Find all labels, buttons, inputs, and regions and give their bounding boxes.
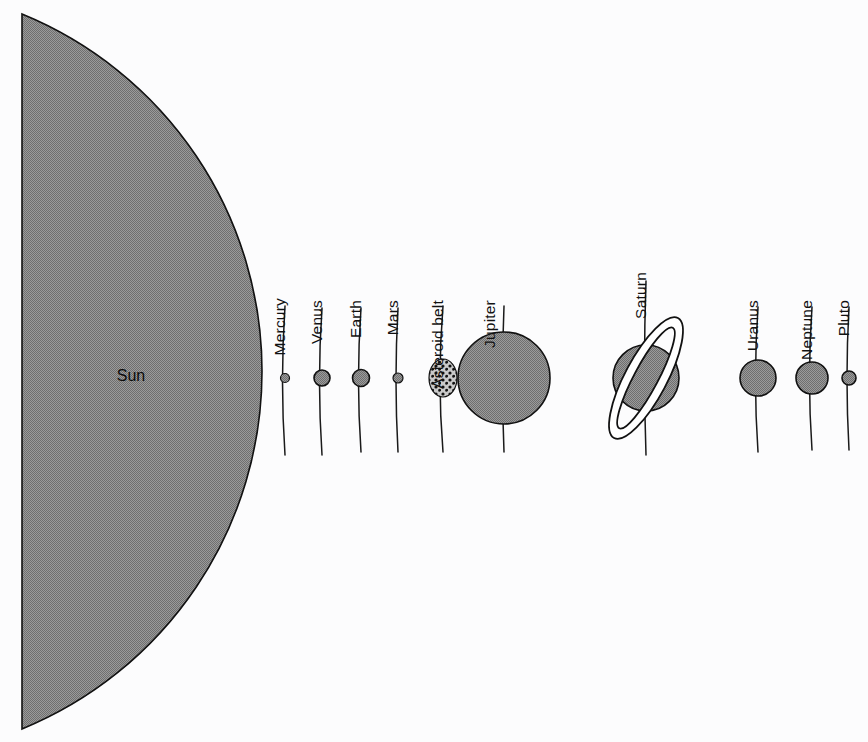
venus-disc <box>314 370 330 386</box>
pluto-disc <box>842 371 856 385</box>
uranus-disc <box>740 360 776 396</box>
neptune-disc <box>796 362 828 394</box>
label-pluto: Pluto <box>835 300 852 336</box>
label-mercury: Mercury <box>271 298 288 355</box>
label-earth: Earth <box>347 300 364 338</box>
label-saturn: Saturn <box>632 272 649 319</box>
label-jupiter: Jupiter <box>481 300 498 348</box>
mars-disc <box>393 373 403 383</box>
jupiter-disc <box>458 332 550 424</box>
label-uranus: Uranus <box>744 300 761 351</box>
solar-system-diagram: Sun MercuryVenusEarthMarsAsteroid beltJu… <box>0 0 868 742</box>
label-mars: Mars <box>384 300 401 335</box>
label-venus: Venus <box>308 300 325 344</box>
sun-label: Sun <box>117 367 145 384</box>
mercury-disc <box>281 374 290 383</box>
diagram-canvas: Sun MercuryVenusEarthMarsAsteroid beltJu… <box>0 0 868 742</box>
label-asteroid-belt: Asteroid belt <box>429 300 446 389</box>
earth-disc <box>353 370 370 387</box>
label-neptune: Neptune <box>798 300 815 360</box>
